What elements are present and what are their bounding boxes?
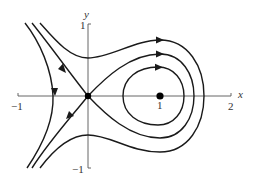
outer-orbit [40,23,204,168]
x-tick-label-1: 1 [157,100,163,111]
stable-manifold [32,23,88,96]
x-tick-label-2: 2 [228,101,234,112]
x-axis-label: x [238,89,243,100]
arrow-inner-top-icon [155,64,163,71]
phase-portrait-svg [0,0,256,181]
x-tick-label-neg1: −1 [11,101,23,112]
saddle-point [85,93,91,99]
phase-portrait: y 1 −1 −1 1 2 x [0,0,256,181]
arrow-leftmost-icon [51,88,58,96]
arrow-homoclinic-top-icon [156,51,164,58]
y-tick-label-neg1: −1 [72,164,84,175]
unstable-manifold-left [32,96,88,168]
y-tick-label-1: 1 [80,20,86,31]
arrow-outer-top-icon [156,37,164,44]
